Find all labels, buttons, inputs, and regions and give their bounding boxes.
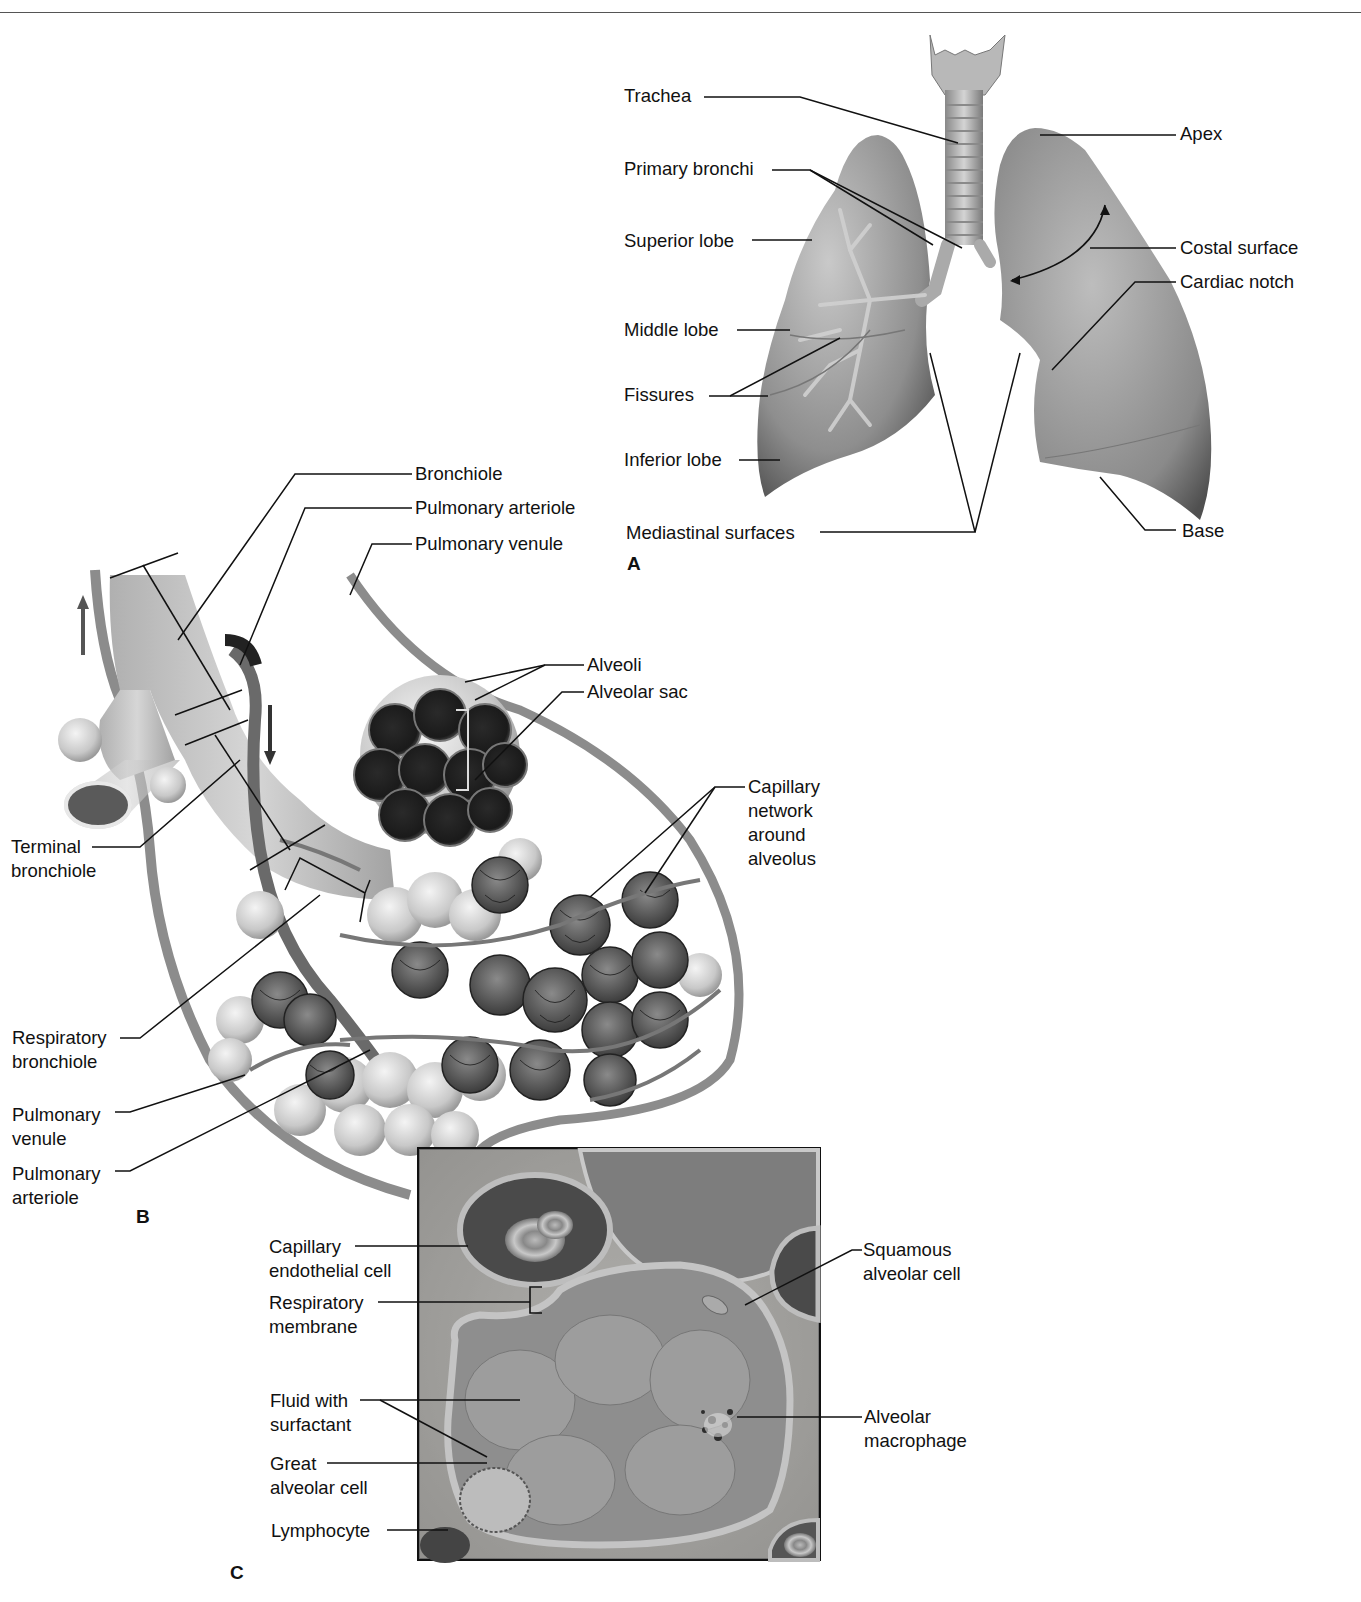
- label-primary-bronchi: Primary bronchi: [624, 157, 754, 181]
- label-costal-surface: Costal surface: [1180, 236, 1298, 260]
- label-pulmonary-arteriole-left: Pulmonary arteriole: [12, 1162, 100, 1210]
- lungs-illustration: [757, 35, 1211, 520]
- panel-letter-c: C: [230, 1562, 244, 1584]
- label-alveoli: Alveoli: [587, 653, 642, 677]
- label-pulmonary-venule-top: Pulmonary venule: [415, 532, 563, 556]
- label-middle-lobe: Middle lobe: [624, 318, 719, 342]
- label-alveolar-macrophage: Alveolar macrophage: [864, 1405, 967, 1453]
- label-bronchiole: Bronchiole: [415, 462, 502, 486]
- label-pulmonary-venule-left: Pulmonary venule: [12, 1103, 100, 1151]
- label-mediastinal-surfaces: Mediastinal surfaces: [626, 521, 795, 545]
- label-fluid-with-surfactant: Fluid with surfactant: [270, 1389, 351, 1437]
- label-respiratory-bronchiole: Respiratory bronchiole: [12, 1026, 107, 1074]
- respiratory-membrane-illustration: [418, 1148, 820, 1563]
- label-terminal-bronchiole: Terminal bronchiole: [11, 835, 96, 883]
- label-cardiac-notch: Cardiac notch: [1180, 270, 1294, 294]
- label-superior-lobe: Superior lobe: [624, 229, 734, 253]
- label-inferior-lobe: Inferior lobe: [624, 448, 722, 472]
- label-base: Base: [1182, 519, 1224, 543]
- label-capillary-network: Capillary network around alveolus: [748, 775, 820, 871]
- label-squamous-alveolar-cell: Squamous alveolar cell: [863, 1238, 961, 1286]
- label-alveolar-sac: Alveolar sac: [587, 680, 688, 704]
- label-respiratory-membrane: Respiratory membrane: [269, 1291, 364, 1339]
- label-apex: Apex: [1180, 122, 1222, 146]
- label-fissures: Fissures: [624, 383, 694, 407]
- panel-letter-a: A: [627, 553, 641, 575]
- label-great-alveolar-cell: Great alveolar cell: [270, 1452, 368, 1500]
- label-lymphocyte: Lymphocyte: [271, 1519, 370, 1543]
- panel-letter-b: B: [136, 1206, 150, 1228]
- label-pulmonary-arteriole-top: Pulmonary arteriole: [415, 496, 575, 520]
- label-capillary-endothelial-cell: Capillary endothelial cell: [269, 1235, 391, 1283]
- label-trachea: Trachea: [624, 84, 691, 108]
